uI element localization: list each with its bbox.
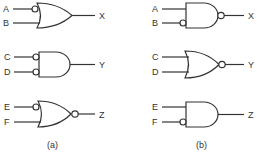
input-label-d: D bbox=[152, 67, 159, 77]
input-label-a: A bbox=[152, 4, 158, 14]
input-label-d: D bbox=[4, 67, 11, 77]
inversion-bubble-icon bbox=[180, 20, 186, 26]
panel-caption-a: (a) bbox=[47, 140, 58, 150]
nor-gate-body bbox=[185, 51, 219, 78]
or-gate-body bbox=[37, 3, 72, 28]
output-inversion-bubble-icon bbox=[72, 111, 78, 117]
gate-a3-nor: E F Z bbox=[4, 101, 105, 127]
output-inversion-bubble-icon bbox=[218, 12, 224, 18]
output-label-z: Z bbox=[248, 110, 254, 120]
input-label-c: C bbox=[152, 52, 159, 62]
input-label-e: E bbox=[152, 102, 158, 112]
output-label-y: Y bbox=[248, 60, 254, 70]
inversion-bubble-icon bbox=[33, 104, 39, 110]
gate-b2-nor: C D Y bbox=[152, 51, 254, 78]
logic-gates-diagram: A B X C D Y E F bbox=[0, 0, 257, 153]
input-label-c: C bbox=[4, 52, 11, 62]
and-gate-body bbox=[186, 3, 218, 28]
input-label-b: B bbox=[3, 18, 9, 28]
gate-a1-or: A B X bbox=[3, 3, 105, 28]
output-label-x: X bbox=[248, 11, 254, 21]
output-label-z: Z bbox=[99, 110, 105, 120]
gate-b1-nand: A B X bbox=[152, 3, 254, 28]
input-label-f: F bbox=[152, 117, 158, 127]
input-label-f: F bbox=[4, 117, 10, 127]
input-label-e: E bbox=[4, 102, 10, 112]
panel-b: A B X C D Y E F bbox=[152, 3, 254, 150]
output-label-y: Y bbox=[99, 60, 105, 70]
and-gate-body bbox=[186, 102, 218, 127]
gate-b3-and: E F Z bbox=[152, 102, 254, 127]
output-inversion-bubble-icon bbox=[219, 61, 225, 67]
panel-a: A B X C D Y E F bbox=[3, 3, 105, 150]
inversion-bubble-icon bbox=[33, 69, 39, 75]
output-label-x: X bbox=[99, 11, 105, 21]
nor-gate-body bbox=[38, 101, 71, 127]
gate-a2-and: C D Y bbox=[4, 52, 105, 77]
panel-caption-b: (b) bbox=[196, 140, 207, 150]
input-label-a: A bbox=[3, 4, 9, 14]
inversion-bubble-icon bbox=[180, 119, 186, 125]
and-gate-body bbox=[39, 52, 70, 77]
input-label-b: B bbox=[152, 18, 158, 28]
inversion-bubble-icon bbox=[32, 6, 38, 12]
inversion-bubble-icon bbox=[33, 54, 39, 60]
